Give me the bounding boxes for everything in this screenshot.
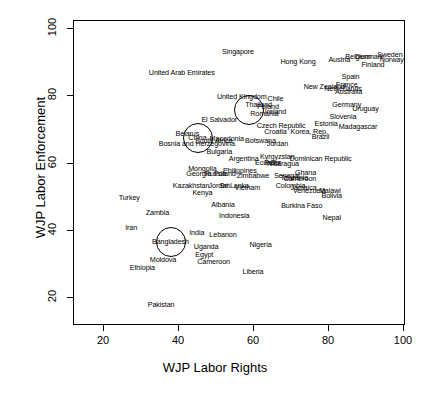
data-point-label: Finland	[362, 61, 385, 69]
y-axis-tick	[67, 230, 73, 231]
y-axis-tick-label: 20	[42, 290, 62, 302]
x-axis-tick-label: 20	[83, 334, 123, 346]
x-axis-tick	[253, 325, 254, 331]
data-point-label: Nepal	[323, 214, 341, 222]
data-point-label: Nigeria	[249, 241, 271, 249]
data-point-label: Singapore	[222, 48, 254, 56]
y-axis-tick	[67, 28, 73, 29]
highlight-circle	[156, 227, 186, 257]
data-point-label: Ireland	[265, 108, 286, 116]
data-point-label: Turkey	[119, 194, 140, 202]
data-point-label: El Salvador	[201, 116, 237, 124]
highlight-circle	[183, 123, 213, 153]
data-point-label: Lebanon	[209, 231, 236, 239]
data-point-label: Hong Kong	[280, 58, 315, 66]
y-axis-tick	[67, 95, 73, 96]
x-axis-tick-label: 60	[233, 334, 273, 346]
y-axis-title: WJP Labor Enforcement	[33, 48, 48, 288]
data-point-label: Madagascar	[339, 123, 378, 131]
y-axis-tick	[67, 163, 73, 164]
x-axis-tick	[178, 325, 179, 331]
x-axis-tick	[403, 325, 404, 331]
data-point-label: Bolivia	[322, 192, 342, 200]
data-point-label: Vietnam	[235, 184, 261, 192]
data-point-label: Indonesia	[219, 212, 249, 220]
scatter-plot-figure: SingaporeHong KongAustriaBelgiumDenmarkS…	[0, 0, 430, 402]
data-point-label: Zimbabwe	[237, 172, 269, 180]
data-point-label: Pakistan	[148, 301, 175, 309]
data-point-label: Ethiopia	[130, 264, 155, 272]
x-axis-tick-label: 80	[308, 334, 348, 346]
data-point-label: Jordan	[267, 140, 288, 148]
x-axis-tick-label: 100	[383, 334, 423, 346]
data-point-label: Cameroon	[197, 258, 230, 266]
data-point-label: Brazil	[312, 133, 329, 141]
data-point-label: Poland	[214, 170, 236, 178]
data-point-label: Liberia	[243, 268, 264, 276]
data-point-label: United Arab Emirates	[149, 69, 215, 77]
x-axis-tick	[103, 325, 104, 331]
data-point-label: Albania	[211, 201, 234, 209]
data-point-label: Iran	[125, 224, 137, 232]
data-point-label: Kenya	[192, 189, 212, 197]
y-axis-tick	[67, 297, 73, 298]
data-point-label: Zambia	[146, 209, 169, 217]
x-axis-tick-label: 40	[158, 334, 198, 346]
x-axis-tick	[328, 325, 329, 331]
data-point-label: India	[189, 229, 204, 237]
plot-area: SingaporeHong KongAustriaBelgiumDenmarkS…	[73, 20, 405, 325]
data-point-label: Burkina Faso	[281, 202, 322, 210]
data-point-label: Australia	[335, 88, 362, 96]
x-axis-title: WJP Labor Rights	[0, 360, 430, 375]
y-axis-tick-label: 100	[42, 21, 62, 33]
highlight-circle	[234, 95, 264, 125]
